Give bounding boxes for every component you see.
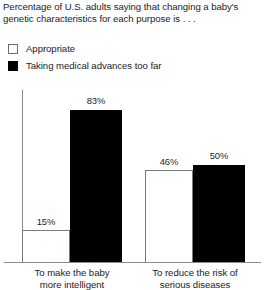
bar-too-far-intelligent [70,110,122,262]
category-label-line-2: more intelligent [12,279,132,290]
bar-too-far-diseases [193,165,245,262]
category-label-line-2: serious diseases [135,279,255,290]
x-axis-line [4,262,261,263]
bar-value-too-far-intelligent: 83% [66,95,126,106]
category-label-diseases: To reduce the risk of serious diseases [135,267,255,290]
category-label-line-1: To reduce the risk of [135,267,255,279]
bar-value-appropriate-intelligent: 15% [16,216,76,227]
bar-appropriate-diseases [145,170,193,262]
bar-chart-plot-area: 15% 83% 46% 50% To make the baby more in… [0,0,265,290]
bar-appropriate-intelligent [22,230,70,262]
category-label-line-1: To make the baby [12,267,132,279]
category-label-intelligent: To make the baby more intelligent [12,267,132,290]
bar-value-too-far-diseases: 50% [189,150,249,161]
